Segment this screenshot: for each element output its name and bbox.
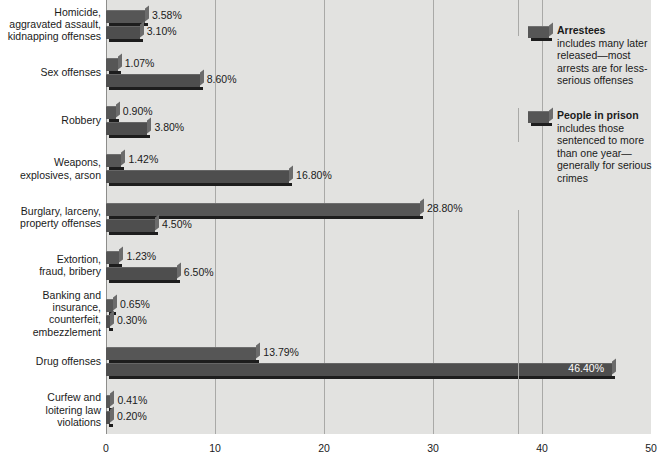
bar-arrestees: 1.23%	[106, 251, 119, 264]
bar-shadow	[109, 424, 113, 427]
bar-body	[106, 363, 612, 376]
bar-value-label: 1.42%	[128, 153, 158, 166]
bar-shadow	[109, 135, 150, 138]
category-label: Curfew and loitering law violations	[0, 391, 101, 428]
category-label: Sex offenses	[0, 66, 101, 78]
category-label: Robbery	[0, 114, 101, 126]
legend-divider-top	[518, 0, 519, 36]
bar-prison: 3.10%	[106, 26, 140, 39]
bar-cap	[612, 359, 616, 375]
bar-cap	[113, 294, 117, 310]
legend-title: Arrestees	[557, 24, 652, 37]
bar-body	[106, 170, 289, 183]
bar-cap	[200, 69, 204, 85]
legend-swatch	[528, 111, 549, 123]
legend-entry: People in prisonincludes those sentenced…	[528, 109, 652, 185]
bar-shadow	[109, 232, 158, 235]
bar-value-label: 0.41%	[117, 394, 147, 407]
x-tick-label: 20	[318, 442, 330, 454]
category-label: Banking and insurance, counterfeit, embe…	[0, 289, 101, 339]
bar-shadow	[109, 376, 615, 379]
bar-shadow	[109, 280, 180, 283]
bar-arrestees: 28.80%	[106, 203, 420, 216]
bar-body	[106, 10, 145, 23]
bar-cap	[147, 117, 151, 133]
bar-shadow	[109, 87, 203, 90]
category-label: Burglary, larceny, property offenses	[0, 205, 101, 230]
bar-shadow	[109, 39, 143, 42]
category-label: Drug offenses	[0, 355, 101, 367]
legend-description: includes many later released—most arrest…	[557, 37, 652, 87]
bar-value-label: 28.80%	[427, 202, 463, 215]
bar-arrestees: 3.58%	[106, 10, 145, 23]
bar-cap	[289, 166, 293, 182]
bar-cap	[121, 150, 125, 166]
bar-value-label: 3.58%	[152, 9, 182, 22]
bar-value-label: 16.80%	[296, 169, 332, 182]
legend-swatch-shadow	[531, 123, 552, 126]
bar-body	[106, 203, 420, 216]
bar-cap	[110, 310, 114, 326]
legend-text: Arresteesincludes many later released—mo…	[557, 24, 652, 87]
bar-value-label: 3.10%	[147, 25, 177, 38]
bar-arrestees: 0.41%	[106, 395, 110, 408]
x-tick-label: 10	[209, 442, 221, 454]
bar-value-label: 0.20%	[117, 410, 147, 423]
legend-text: People in prisonincludes those sentenced…	[557, 109, 652, 185]
bar-body	[106, 347, 256, 360]
chart-legend: Arresteesincludes many later released—mo…	[528, 24, 652, 185]
bar-arrestees: 0.90%	[106, 106, 116, 119]
bar-prison: 0.20%	[106, 411, 110, 424]
category-label: Extortion, fraud, bribery	[0, 253, 101, 278]
bar-value-label: 3.80%	[154, 121, 184, 134]
bar-prison: 6.50%	[106, 267, 177, 280]
bar-body	[106, 106, 116, 119]
value-axis: 01020304050	[106, 434, 651, 467]
legend-swatch-shadow	[531, 38, 552, 41]
bar-prison: 0.30%	[106, 315, 110, 328]
legend-divider-bottom	[518, 210, 519, 434]
bar-cap	[256, 343, 260, 359]
bar-value-label: 1.07%	[125, 57, 155, 70]
bar-shadow	[109, 328, 113, 331]
bar-prison: 46.40%	[106, 363, 612, 376]
x-tick-label: 0	[103, 442, 109, 454]
bar-value-label: 1.23%	[126, 250, 156, 263]
bar-body	[106, 26, 140, 39]
bar-body	[106, 74, 200, 87]
x-tick-label: 40	[536, 442, 548, 454]
legend-description: includes those sentenced to more than on…	[557, 122, 652, 185]
bar-body	[106, 219, 155, 232]
bar-cap	[155, 214, 159, 230]
bar-chart: Homicide, aggravated assault, kidnapping…	[0, 0, 662, 467]
bar-shadow	[109, 183, 292, 186]
bar-value-label: 6.50%	[184, 266, 214, 279]
bar-value-label: 13.79%	[263, 346, 299, 359]
legend-swatch	[528, 26, 549, 38]
legend-entry: Arresteesincludes many later released—mo…	[528, 24, 652, 87]
category-label: Weapons, explosives, arson	[0, 156, 101, 181]
bar-cap	[177, 262, 181, 278]
legend-title: People in prison	[557, 109, 652, 122]
bar-cap	[119, 246, 123, 262]
bar-value-label: 0.30%	[117, 314, 147, 327]
bar-body	[106, 154, 121, 167]
bar-body	[106, 251, 119, 264]
bar-value-label: 0.65%	[120, 298, 150, 311]
x-tick-label: 30	[427, 442, 439, 454]
legend-swatch-cap	[549, 107, 553, 121]
bar-body	[106, 267, 177, 280]
bar-body	[106, 58, 118, 71]
bar-arrestees: 1.42%	[106, 154, 121, 167]
bar-cap	[116, 101, 120, 117]
bar-cap	[145, 5, 149, 21]
bar-prison: 16.80%	[106, 170, 289, 183]
category-axis: Homicide, aggravated assault, kidnapping…	[0, 0, 101, 434]
bar-value-label: 46.40%	[568, 362, 604, 375]
x-tick-label: 50	[645, 442, 657, 454]
legend-swatch-cap	[549, 22, 553, 36]
bar-value-label: 0.90%	[123, 105, 153, 118]
bar-arrestees: 0.65%	[106, 299, 113, 312]
bar-cap	[110, 391, 114, 407]
bar-body	[106, 122, 147, 135]
